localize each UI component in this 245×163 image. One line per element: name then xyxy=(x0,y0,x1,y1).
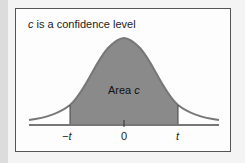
tick-t: t xyxy=(176,130,179,142)
area-label: Area c xyxy=(108,84,140,96)
figure-title: c is a confidence level xyxy=(28,18,136,30)
tick-zero: 0 xyxy=(121,130,127,142)
tick-neg-t: −t xyxy=(62,130,71,142)
